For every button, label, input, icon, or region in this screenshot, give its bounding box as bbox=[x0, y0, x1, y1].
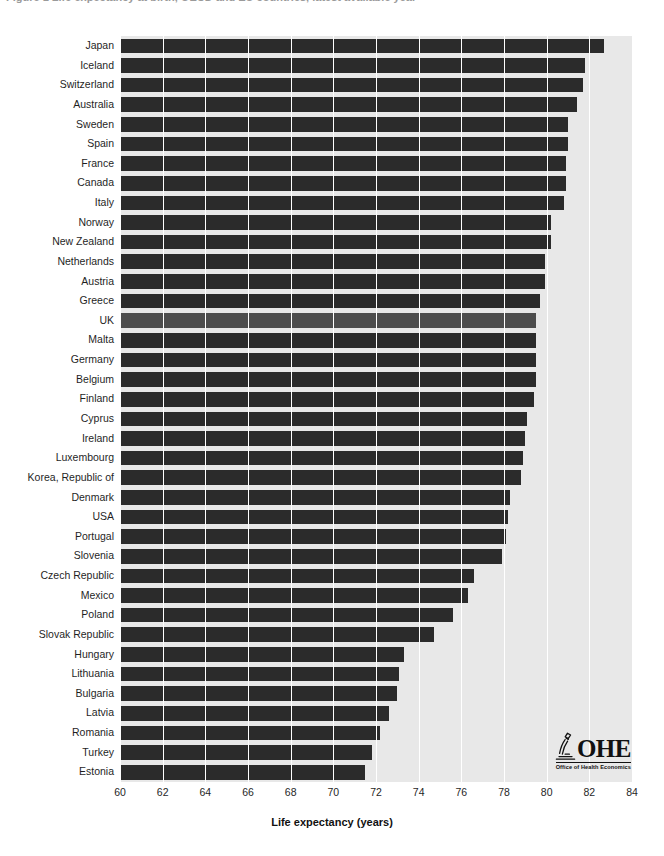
bar-row bbox=[120, 115, 632, 135]
y-axis-label: Korea, Republic of bbox=[0, 468, 114, 488]
y-axis-label: Belgium bbox=[0, 370, 114, 390]
bar-latvia bbox=[120, 706, 389, 721]
bar-row bbox=[120, 193, 632, 213]
plot-area bbox=[120, 36, 632, 782]
y-axis-label: Czech Republic bbox=[0, 566, 114, 586]
x-axis-tick-labels: 60626466687072747678808284 bbox=[0, 786, 664, 804]
bar-ireland bbox=[120, 431, 525, 446]
bar-row bbox=[120, 488, 632, 508]
bar-row bbox=[120, 56, 632, 76]
bar-hungary bbox=[120, 647, 404, 662]
x-axis-tick-label: 84 bbox=[626, 786, 638, 798]
bar-sweden bbox=[120, 117, 568, 132]
y-axis-label: Australia bbox=[0, 95, 114, 115]
bar-japan bbox=[120, 39, 604, 54]
bar-germany bbox=[120, 353, 536, 368]
bar-australia bbox=[120, 97, 577, 112]
bar-row bbox=[120, 173, 632, 193]
y-axis-label: Turkey bbox=[0, 743, 114, 763]
x-axis-title: Life expectancy (years) bbox=[0, 816, 664, 828]
bar-row bbox=[120, 232, 632, 252]
y-axis-labels: JapanIcelandSwitzerlandAustraliaSwedenSp… bbox=[0, 36, 114, 782]
bar-iceland bbox=[120, 58, 585, 73]
y-axis-label: Austria bbox=[0, 272, 114, 292]
bar-czech-republic bbox=[120, 569, 474, 584]
y-axis-label: Norway bbox=[0, 213, 114, 233]
y-axis-label: Iceland bbox=[0, 56, 114, 76]
bar-poland bbox=[120, 608, 453, 623]
x-axis-tick-label: 80 bbox=[541, 786, 553, 798]
y-axis-label: Greece bbox=[0, 291, 114, 311]
bar-row bbox=[120, 75, 632, 95]
bar-turkey bbox=[120, 745, 372, 760]
bar-canada bbox=[120, 176, 566, 191]
x-axis-tick-label: 78 bbox=[498, 786, 510, 798]
bar-slovenia bbox=[120, 549, 502, 564]
bar-austria bbox=[120, 274, 545, 289]
bar-spain bbox=[120, 137, 568, 152]
x-axis-tick-label: 76 bbox=[455, 786, 467, 798]
bar-malta bbox=[120, 333, 536, 348]
bar-row bbox=[120, 566, 632, 586]
y-axis-label: Romania bbox=[0, 723, 114, 743]
x-axis-tick-label: 72 bbox=[370, 786, 382, 798]
bar-row bbox=[120, 409, 632, 429]
x-axis-tick-label: 70 bbox=[327, 786, 339, 798]
bar-row bbox=[120, 527, 632, 547]
bar-norway bbox=[120, 215, 551, 230]
bar-romania bbox=[120, 726, 380, 741]
bar-row bbox=[120, 429, 632, 449]
bar-cyprus bbox=[120, 412, 527, 427]
bar-switzerland bbox=[120, 78, 583, 93]
y-axis-label: Malta bbox=[0, 330, 114, 350]
life-expectancy-bar-chart: JapanIcelandSwitzerlandAustraliaSwedenSp… bbox=[0, 0, 664, 856]
bar-estonia bbox=[120, 765, 365, 780]
bar-portugal bbox=[120, 529, 506, 544]
bar-row bbox=[120, 546, 632, 566]
bar-finland bbox=[120, 392, 534, 407]
bar-new-zealand bbox=[120, 235, 551, 250]
y-axis-label: Mexico bbox=[0, 586, 114, 606]
y-axis-label: Italy bbox=[0, 193, 114, 213]
y-axis-label: Switzerland bbox=[0, 75, 114, 95]
bar-row bbox=[120, 507, 632, 527]
bar-denmark bbox=[120, 490, 510, 505]
bar-bulgaria bbox=[120, 686, 397, 701]
bar-italy bbox=[120, 196, 564, 211]
bar-row bbox=[120, 448, 632, 468]
bar-row bbox=[120, 703, 632, 723]
y-axis-label: Netherlands bbox=[0, 252, 114, 272]
y-axis-label: New Zealand bbox=[0, 232, 114, 252]
bar-row bbox=[120, 311, 632, 331]
bar-greece bbox=[120, 294, 540, 309]
bar-belgium bbox=[120, 372, 536, 387]
bar-row bbox=[120, 252, 632, 272]
bar-row bbox=[120, 291, 632, 311]
x-axis-tick-label: 62 bbox=[157, 786, 169, 798]
bar-rows bbox=[120, 36, 632, 782]
gridline-84 bbox=[632, 36, 633, 782]
y-axis-label: Estonia bbox=[0, 762, 114, 782]
bar-row bbox=[120, 684, 632, 704]
y-axis-label: Luxembourg bbox=[0, 448, 114, 468]
x-axis-tick-label: 74 bbox=[413, 786, 425, 798]
y-axis-label: Hungary bbox=[0, 645, 114, 665]
bar-row bbox=[120, 95, 632, 115]
y-axis-label: Cyprus bbox=[0, 409, 114, 429]
x-axis-tick-label: 64 bbox=[199, 786, 211, 798]
y-axis-label: Canada bbox=[0, 173, 114, 193]
logo-wordmark: OHE bbox=[577, 737, 631, 761]
microscope-icon bbox=[553, 731, 579, 761]
bar-row bbox=[120, 134, 632, 154]
bar-lithuania bbox=[120, 667, 399, 682]
bar-france bbox=[120, 156, 566, 171]
bar-mexico bbox=[120, 588, 468, 603]
x-axis-tick-label: 82 bbox=[583, 786, 595, 798]
y-axis-label: Slovak Republic bbox=[0, 625, 114, 645]
y-axis-label: France bbox=[0, 154, 114, 174]
bar-row bbox=[120, 468, 632, 488]
bar-row bbox=[120, 605, 632, 625]
y-axis-label: Latvia bbox=[0, 703, 114, 723]
bar-row bbox=[120, 213, 632, 233]
y-axis-label: Sweden bbox=[0, 115, 114, 135]
